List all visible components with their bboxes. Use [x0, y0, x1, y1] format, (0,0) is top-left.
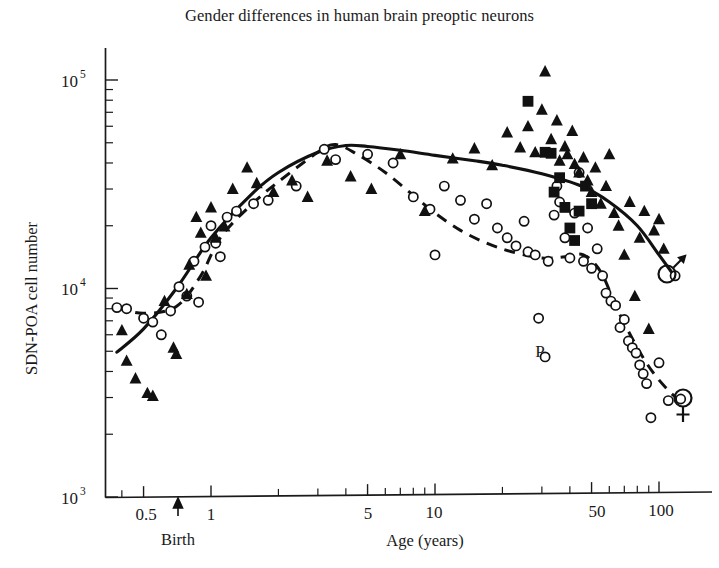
data-point-female: [534, 314, 543, 323]
data-point-group3: [554, 172, 565, 183]
data-point-female: [430, 250, 439, 259]
data-point-female: [148, 318, 157, 327]
x-tick-label-0-5: 0.5: [135, 505, 156, 524]
x-tick-label-1: 1: [207, 505, 216, 524]
data-point-female: [249, 199, 258, 208]
data-point-female: [560, 233, 569, 242]
data-point-female: [331, 155, 340, 164]
data-point-male: [227, 183, 239, 194]
data-point-male: [618, 249, 630, 260]
data-point-male: [241, 161, 253, 172]
data-point-female: [174, 282, 183, 291]
data-point-group3: [574, 206, 585, 217]
data-point-female: [223, 213, 232, 222]
data-point-group3: [560, 202, 571, 213]
chart-canvas: 10 5 10 4 10 3 0.5 1 5 10 50 100 SDN-POA…: [0, 0, 719, 568]
data-point-male: [648, 224, 660, 235]
data-point-male: [501, 126, 513, 137]
data-point-female: [620, 315, 629, 324]
birth-arrow-icon: [174, 498, 183, 516]
data-point-female: [550, 211, 559, 220]
data-point-female: [654, 358, 663, 367]
data-point-female: [456, 196, 465, 205]
data-point-male: [302, 191, 314, 202]
data-point-group3: [546, 148, 557, 159]
scatter-plot-svg: 10 5 10 4 10 3 0.5 1 5 10 50 100 SDN-POA…: [0, 0, 719, 568]
y-tick-label-1e3-exp: 3: [80, 485, 86, 497]
data-point-male: [365, 183, 377, 194]
female-fit-curve: [117, 145, 683, 401]
data-point-male: [121, 354, 133, 365]
y-tick-label-1e5-exp: 5: [80, 68, 86, 80]
y-axis-title: SDN-POA cell number: [22, 221, 41, 375]
data-point-female: [642, 379, 651, 388]
data-point-female: [587, 264, 596, 273]
data-point-female: [363, 150, 372, 159]
y-tick-label-1e3-base: 10: [61, 489, 78, 508]
data-point-male: [469, 142, 481, 153]
data-point-female: [531, 250, 540, 259]
birth-marker-group: Birth: [161, 498, 196, 549]
data-point-female: [389, 158, 398, 167]
data-point-female: [511, 241, 520, 250]
female-data-points: [112, 145, 685, 423]
data-point-female: [200, 243, 209, 252]
data-point-male: [539, 65, 551, 76]
data-point-male: [629, 290, 641, 301]
data-point-group3: [565, 223, 576, 234]
data-point-female: [139, 314, 148, 323]
data-point-group3: [549, 187, 560, 198]
axes-group: [106, 48, 713, 498]
data-point-male: [551, 114, 563, 125]
data-point-group3: [569, 235, 580, 246]
data-point-female: [157, 330, 166, 339]
x-tick-label-100: 100: [648, 501, 674, 520]
x-tick-label-50: 50: [589, 502, 606, 521]
data-point-female: [216, 252, 225, 261]
data-point-group3: [523, 96, 534, 107]
data-point-female: [122, 304, 131, 313]
data-point-male: [529, 146, 541, 157]
y-tick-label-1e5-base: 10: [61, 72, 78, 91]
data-point-female: [493, 223, 502, 232]
data-point-female: [593, 244, 602, 253]
data-point-female: [635, 360, 644, 369]
y-tick-label-1e4-exp: 4: [80, 276, 86, 288]
data-point-female: [583, 223, 592, 232]
data-point-female: [664, 396, 673, 405]
data-point-male: [345, 170, 357, 181]
data-point-female: [646, 413, 655, 422]
y-axis-ticks: [105, 80, 118, 497]
data-point-female: [565, 253, 574, 262]
data-point-male: [195, 226, 207, 237]
data-point-male: [116, 324, 128, 335]
data-point-female: [520, 217, 529, 226]
data-point-group3: [586, 198, 597, 209]
data-point-male: [205, 201, 217, 212]
data-point-female: [598, 271, 607, 280]
data-point-female: [320, 145, 329, 154]
female-symbol-cross-icon: [677, 407, 690, 423]
data-point-female: [194, 298, 203, 307]
data-point-male: [613, 219, 625, 230]
data-point-female: [112, 303, 121, 312]
x-tick-label-5: 5: [364, 504, 373, 523]
data-point-female: [611, 301, 620, 310]
y-axis-tick-labels: 10 5 10 4 10 3: [61, 68, 86, 508]
data-point-male: [638, 205, 650, 216]
figure-container: Gender differences in human brain preopt…: [0, 0, 719, 568]
p-annotation-label: P: [535, 342, 544, 361]
data-point-female: [470, 215, 479, 224]
birth-label: Birth: [161, 530, 196, 549]
data-point-male: [559, 140, 571, 151]
data-point-female: [482, 199, 491, 208]
data-point-female: [676, 394, 685, 403]
data-point-female: [544, 257, 553, 266]
data-point-group3: [580, 181, 591, 192]
data-point-female: [579, 257, 588, 266]
data-point-female: [503, 233, 512, 242]
data-point-male: [566, 125, 578, 136]
data-point-male: [251, 177, 263, 188]
data-point-female: [232, 207, 241, 216]
data-point-male: [536, 103, 548, 114]
